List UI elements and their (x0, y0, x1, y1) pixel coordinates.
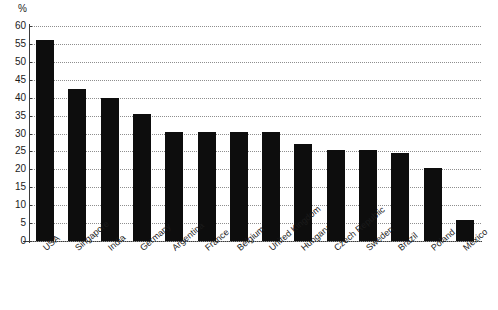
bar[interactable] (36, 40, 54, 241)
y-tick-label: 30 (4, 129, 26, 139)
y-tick-label: 25 (4, 146, 26, 156)
y-tick-label: 20 (4, 164, 26, 174)
y-tick-label: 0 (4, 236, 26, 246)
y-tick-mark (29, 44, 32, 45)
y-tick-mark (29, 62, 32, 63)
bar-slot (320, 26, 352, 241)
bar[interactable] (230, 132, 248, 241)
bar-slot (94, 26, 126, 241)
y-tick-label: 40 (4, 93, 26, 103)
bar-slot (255, 26, 287, 241)
bar[interactable] (133, 114, 151, 241)
bar-chart: % 605550454035302520151050 USASingaporeI… (0, 0, 498, 310)
y-tick-label: 15 (4, 182, 26, 192)
y-tick-mark (29, 151, 32, 152)
y-tick-mark (29, 98, 32, 99)
y-tick-mark (29, 241, 32, 242)
bar-slot (416, 26, 448, 241)
x-axis-tick-labels: USASingaporeIndiaGermanyArgentinaFranceB… (29, 243, 481, 310)
bar-slot (29, 26, 61, 241)
y-tick-mark (29, 223, 32, 224)
y-tick-mark (29, 187, 32, 188)
y-tick-label: 35 (4, 111, 26, 121)
bar-slot (126, 26, 158, 241)
bar[interactable] (262, 132, 280, 241)
y-tick-label: 55 (4, 39, 26, 49)
y-tick-label: 60 (4, 21, 26, 31)
y-tick-mark (29, 169, 32, 170)
y-tick-label: 5 (4, 218, 26, 228)
bar-slot (158, 26, 190, 241)
y-tick-label: 45 (4, 75, 26, 85)
bar[interactable] (424, 168, 442, 241)
bar-slot (384, 26, 416, 241)
y-tick-mark (29, 26, 32, 27)
bar-slot (449, 26, 481, 241)
y-tick-mark (29, 205, 32, 206)
y-tick-label: 10 (4, 200, 26, 210)
y-tick-mark (29, 80, 32, 81)
bar-slot (61, 26, 93, 241)
bar[interactable] (391, 153, 409, 241)
y-axis-tick-labels: 605550454035302520151050 (0, 0, 26, 310)
bars-group (29, 26, 481, 241)
bar[interactable] (68, 89, 86, 241)
y-tick-label: 50 (4, 57, 26, 67)
bar-slot (190, 26, 222, 241)
y-tick-mark (29, 134, 32, 135)
y-tick-mark (29, 116, 32, 117)
bar-slot (223, 26, 255, 241)
